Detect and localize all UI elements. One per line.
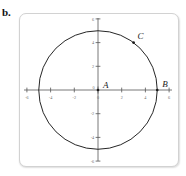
x-tick-label: 6 — [168, 95, 170, 100]
y-tick-label: 6 — [92, 17, 94, 22]
point-marker-b — [156, 89, 159, 92]
x-tick-label: -6 — [25, 95, 29, 100]
y-tick-label: 2 — [92, 64, 94, 69]
x-tick-label: -2 — [73, 95, 77, 100]
x-tick-label: 4 — [144, 95, 147, 100]
y-tick-label: -2 — [91, 111, 95, 116]
point-label-c: C — [138, 31, 145, 41]
point-label-a: A — [102, 80, 109, 90]
y-tick-label: -4 — [91, 135, 95, 140]
y-tick-label: 4 — [92, 40, 95, 45]
point-marker-c — [132, 41, 135, 44]
x-tick-label: 2 — [121, 95, 123, 100]
x-tick-label: -4 — [49, 95, 53, 100]
y-tick-label: 0 — [92, 85, 94, 90]
plot-frame: -6-4-20246 6420-2-4-6 ABC — [19, 13, 179, 167]
x-axis-ticks: -6-4-20246 — [25, 87, 170, 101]
part-label: b. — [2, 6, 11, 18]
coordinate-plane-graph: -6-4-20246 6420-2-4-6 ABC — [20, 14, 176, 164]
figure-container: b. -6-4-20246 6420-2-4-6 ABC — [0, 0, 186, 176]
x-tick-label: 0 — [97, 95, 99, 100]
point-marker-a — [97, 89, 100, 92]
points-group: ABC — [97, 31, 169, 91]
y-tick-label: -6 — [91, 159, 95, 164]
point-label-b: B — [162, 79, 168, 89]
